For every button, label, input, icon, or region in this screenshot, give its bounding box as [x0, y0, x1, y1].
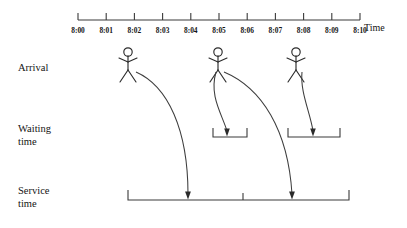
tick-label-8-02: 8:02	[128, 26, 142, 35]
time-axis-ticks	[78, 13, 360, 20]
tick-label-8-05: 8:05	[212, 26, 226, 35]
tick-label-8-09: 8:09	[325, 26, 339, 35]
stick-figure-arm-left	[209, 58, 218, 62]
stick-figure-leg-left	[120, 70, 128, 82]
diagram-canvas: 8:00 8:01 8:02 8:03 8:04 8:05 8:06 8:07 …	[0, 0, 407, 228]
queueing-timeline-diagram: 8:00 8:01 8:02 8:03 8:04 8:05 8:06 8:07 …	[0, 0, 407, 228]
stick-figure-leg-left	[288, 70, 296, 82]
stick-figure-head-icon	[124, 48, 132, 56]
tick-label-8-08: 8:08	[297, 26, 311, 35]
tick-label-8-01: 8:01	[99, 26, 113, 35]
tick-label-8-03: 8:03	[156, 26, 170, 35]
stick-figure-leg-right	[296, 70, 304, 82]
stick-figure-customer-2	[209, 48, 227, 82]
row-label-service-line2: time	[18, 198, 37, 209]
row-label-waiting-line1: Waiting	[18, 123, 52, 134]
stick-figure-arm-left	[287, 58, 296, 62]
tick-label-8-06: 8:06	[240, 26, 254, 35]
row-label-service-line1: Service	[18, 185, 50, 196]
tick-label-8-04: 8:04	[184, 26, 198, 35]
stick-figure-leg-right	[128, 70, 136, 82]
arrival-figures	[119, 48, 305, 82]
time-axis-label: Time	[364, 22, 385, 33]
service-bracket-outline	[128, 190, 349, 200]
stick-figure-arm-left	[119, 58, 128, 62]
flow-curves	[136, 72, 316, 200]
stick-figure-arm-right	[128, 58, 137, 62]
row-label-arrival: Arrival	[18, 62, 48, 73]
arrowhead-customer-2-to-service	[289, 192, 295, 200]
arrowhead-customer-2-to-waiting	[224, 129, 230, 137]
time-axis: 8:00 8:01 8:02 8:03 8:04 8:05 8:06 8:07 …	[71, 13, 385, 35]
tick-label-8-00: 8:00	[71, 26, 85, 35]
service-time-bracket	[128, 190, 349, 200]
curve-customer-2-to-service	[224, 72, 292, 194]
stick-figure-arm-right	[296, 58, 305, 62]
stick-figure-head-icon	[292, 48, 300, 56]
tick-label-8-07: 8:07	[269, 26, 283, 35]
waiting-time-brackets	[213, 128, 340, 137]
curve-customer-1-to-service	[136, 72, 188, 194]
stick-figure-head-icon	[214, 48, 222, 56]
time-axis-tick-labels: 8:00 8:01 8:02 8:03 8:04 8:05 8:06 8:07 …	[71, 26, 367, 35]
arrowhead-customer-1-to-service	[185, 192, 191, 200]
stick-figure-customer-1	[119, 48, 137, 82]
stick-figure-arm-right	[218, 58, 227, 62]
waiting-bracket-1	[213, 128, 247, 137]
row-labels: Arrival Waiting time Service time	[18, 62, 52, 209]
row-label-waiting-line2: time	[18, 136, 37, 147]
arrowhead-customer-3-to-waiting	[310, 129, 316, 137]
stick-figure-customer-3	[287, 48, 305, 82]
